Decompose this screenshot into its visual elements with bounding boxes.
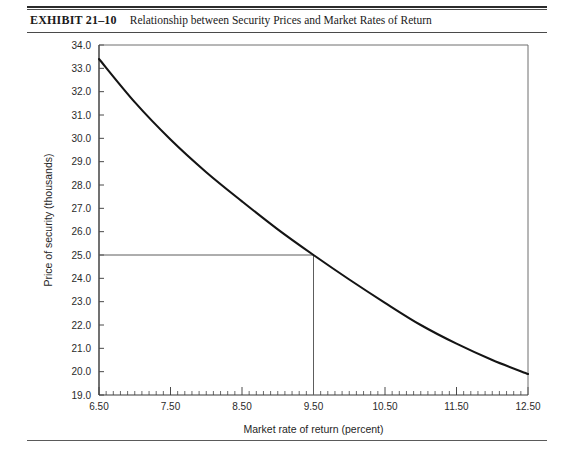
exhibit-caption: Relationship between Security Prices and… xyxy=(130,14,432,26)
y-tick-label: 22.0 xyxy=(72,320,92,331)
x-tick-label: 8.50 xyxy=(232,401,252,412)
x-tick-label: 10.50 xyxy=(372,401,397,412)
y-tick-label: 27.0 xyxy=(72,203,92,214)
x-tick-label: 6.50 xyxy=(89,401,109,412)
x-tick-label: 9.50 xyxy=(304,401,324,412)
y-tick-label: 23.0 xyxy=(72,296,92,307)
y-tick-label: 30.0 xyxy=(72,133,92,144)
y-axis-title: Price of security (thousands) xyxy=(42,153,54,286)
y-tick-label: 24.0 xyxy=(72,273,92,284)
exhibit-header: EXHIBIT 21–10 Relationship between Secur… xyxy=(27,6,547,33)
x-tick-label: 12.50 xyxy=(515,401,540,412)
x-tick-label: 7.50 xyxy=(161,401,181,412)
y-tick-label: 26.0 xyxy=(72,226,92,237)
y-tick-label: 25.0 xyxy=(72,250,92,261)
y-tick-label: 32.0 xyxy=(72,86,92,97)
chart-plot-area: 19.020.021.022.023.024.025.026.027.028.0… xyxy=(0,36,574,436)
y-tick-label: 28.0 xyxy=(72,180,92,191)
x-tick-label: 11.50 xyxy=(444,401,469,412)
y-tick-label: 34.0 xyxy=(72,40,92,51)
x-axis-ticks: 6.507.508.509.5010.5011.5012.50 xyxy=(89,387,541,412)
y-tick-label: 20.0 xyxy=(72,366,92,377)
exhibit-number: EXHIBIT 21–10 xyxy=(30,13,117,28)
exhibit-title-row: EXHIBIT 21–10 Relationship between Secur… xyxy=(27,10,547,32)
header-rule-bottom xyxy=(27,32,547,33)
footer-rule xyxy=(27,440,547,441)
reference-lines xyxy=(99,255,314,395)
y-tick-label: 33.0 xyxy=(72,63,92,74)
y-tick-label: 21.0 xyxy=(72,343,92,354)
y-tick-label: 31.0 xyxy=(72,110,92,121)
x-axis-title: Market rate of return (percent) xyxy=(243,423,383,435)
chart-figure: 19.020.021.022.023.024.025.026.027.028.0… xyxy=(0,36,574,436)
y-tick-label: 19.0 xyxy=(72,390,92,401)
y-tick-label: 29.0 xyxy=(72,156,92,167)
